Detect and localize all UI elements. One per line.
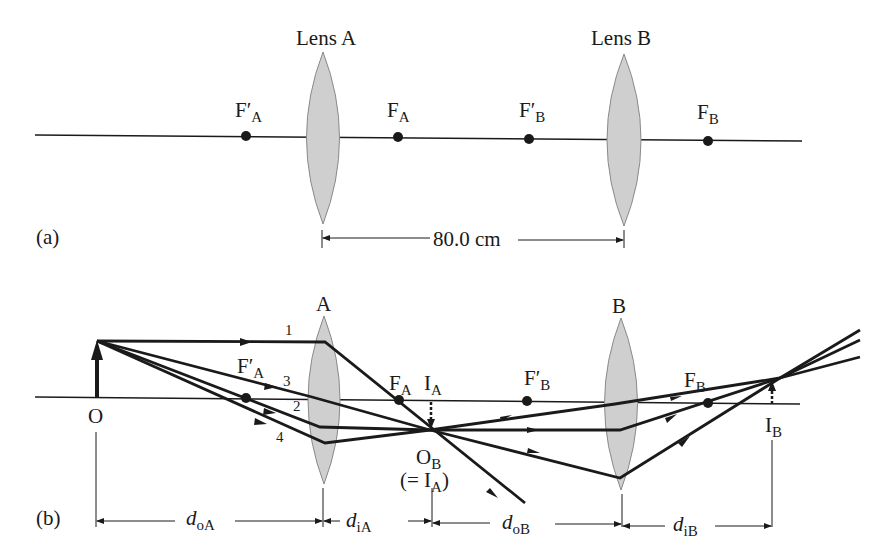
label-fb-prime-a: F′B [519, 100, 545, 125]
lens-a-label-b: A [316, 294, 331, 315]
distance-dob: doB [502, 512, 530, 537]
label-fa-prime-b: F′A [237, 356, 264, 381]
focal-point-fb-a [703, 136, 713, 146]
lens-b-shape [607, 54, 641, 226]
object-label: O [88, 406, 103, 427]
label-ib: IB [765, 415, 782, 440]
distance-dib: diB [673, 514, 698, 539]
distance-doa: doA [186, 508, 215, 533]
label-fa-b: FA [389, 373, 412, 398]
label-fb-b: FB [684, 370, 706, 395]
lens-a-title: Lens A [296, 28, 356, 49]
optical-axis-b [35, 397, 800, 404]
label-ia: IA [424, 373, 442, 398]
focal-point-fb-prime-b [522, 396, 532, 406]
ray-number-3: 3 [283, 374, 291, 389]
lens-a-shape [307, 52, 340, 224]
optical-axis-a [35, 135, 802, 141]
label-fb-prime-b: F′B [524, 368, 550, 393]
ray-arrow [527, 427, 539, 433]
ray-number-2: 2 [293, 399, 301, 414]
distance-dia: diA [346, 510, 372, 535]
panel-b [35, 316, 860, 527]
ray-number-1: 1 [285, 323, 293, 338]
label-ob-equals-ia: (= IA) [400, 470, 449, 495]
panel-b-tag: (b) [36, 508, 61, 529]
lens-b-label-b: B [612, 296, 626, 317]
ray-b-mid [430, 340, 860, 430]
ray-arrow [486, 488, 498, 498]
focal-point-fb-prime-a [524, 134, 534, 144]
separation-label: 80.0 cm [433, 229, 501, 250]
panel-a [35, 52, 802, 248]
label-fa-a: FA [387, 100, 410, 125]
ray-arrow [264, 383, 277, 390]
focal-point-fa-prime-b [241, 393, 251, 403]
panel-a-tag: (a) [36, 227, 59, 248]
ray-arrow [527, 448, 540, 453]
ray-arrow [240, 338, 252, 346]
focal-point-fa-prime-a [241, 131, 251, 141]
diagram-canvas [0, 0, 884, 548]
ray-arrow [670, 396, 682, 401]
focal-point-fa-a [393, 132, 403, 142]
ray-number-4: 4 [276, 430, 284, 445]
focal-point-fb-b [703, 398, 713, 408]
lens-b-title: Lens B [591, 28, 651, 49]
label-fa-prime-a: F′A [235, 100, 262, 125]
ray-arrow [254, 418, 267, 425]
label-fb-a: FB [697, 102, 719, 127]
